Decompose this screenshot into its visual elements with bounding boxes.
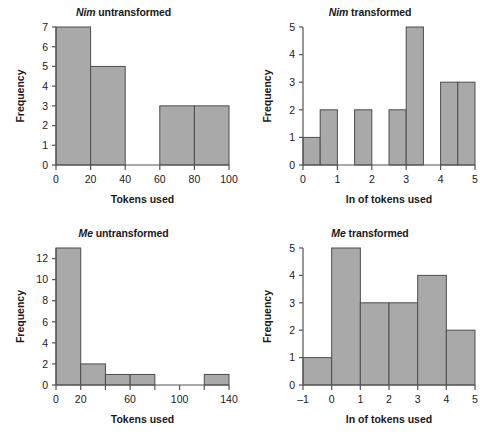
x-axis: 02060100140 (53, 385, 238, 405)
x-tick-label: 100 (220, 173, 238, 185)
y-tick-label: 8 (42, 294, 48, 306)
x-tick-label: –1 (297, 393, 309, 405)
histogram-bar (160, 106, 195, 165)
histogram-figure: Nim untransformed 01234567020406080100To… (0, 0, 493, 441)
x-tick-label: 20 (75, 393, 87, 405)
plot-me-transformed: 012345–1012345ln of tokens usedFrequency (247, 221, 493, 441)
y-axis-title: Frequency (261, 290, 273, 343)
y-tick-label: 5 (289, 21, 295, 33)
y-tick-label: 12 (36, 252, 48, 264)
histogram-bar (91, 66, 126, 165)
x-axis: 020406080100 (53, 165, 238, 185)
x-tick-label: 3 (403, 173, 409, 185)
y-tick-label: 0 (289, 379, 295, 391)
plot-me-untransformed: 02468101202060100140Tokens usedFrequency (0, 221, 247, 441)
histogram-bar (320, 110, 337, 165)
y-tick-label: 0 (42, 379, 48, 391)
x-tick-label: 60 (154, 173, 166, 185)
histogram-bar (355, 110, 372, 165)
bars-group (303, 248, 475, 385)
histogram-bar (446, 330, 475, 385)
histogram-bar (389, 110, 406, 165)
bars-group (56, 27, 229, 165)
histogram-bar (406, 27, 423, 165)
x-axis: –1012345 (297, 385, 478, 405)
bars-group (303, 27, 475, 165)
x-axis-title: Tokens used (111, 193, 174, 205)
y-tick-label: 2 (289, 104, 295, 116)
y-tick-label: 1 (289, 131, 295, 143)
x-axis: 012345 (300, 165, 478, 185)
y-tick-label: 2 (42, 358, 48, 370)
y-tick-label: 2 (289, 324, 295, 336)
y-tick-label: 0 (289, 159, 295, 171)
y-tick-label: 3 (289, 297, 295, 309)
histogram-bar (389, 303, 418, 385)
x-tick-label: 20 (85, 173, 97, 185)
x-tick-label: 0 (53, 393, 59, 405)
plot-nim-transformed: 012345012345ln of tokens usedFrequency (247, 0, 493, 221)
plot-nim-untransformed: 01234567020406080100Tokens usedFrequency (0, 0, 247, 221)
histogram-bar (303, 358, 332, 385)
y-tick-label: 3 (289, 76, 295, 88)
histogram-bar (360, 303, 389, 385)
histogram-bar (332, 248, 361, 385)
y-tick-label: 4 (42, 80, 48, 92)
histogram-bar (441, 82, 458, 165)
x-tick-label: 1 (357, 393, 363, 405)
x-tick-label: 60 (124, 393, 136, 405)
panel-me-transformed: Me transformed 012345–1012345ln of token… (247, 221, 493, 441)
x-tick-label: 0 (300, 173, 306, 185)
y-tick-label: 0 (42, 159, 48, 171)
plot-area: 012345012345 (289, 21, 478, 185)
x-axis-title: ln of tokens used (346, 193, 432, 205)
y-tick-label: 5 (289, 242, 295, 254)
x-tick-label: 5 (472, 173, 478, 185)
bars-group (56, 248, 229, 385)
histogram-bar (204, 374, 229, 385)
histogram-bar (105, 374, 130, 385)
histogram-bar (458, 82, 475, 165)
histogram-bar (303, 137, 320, 165)
y-axis: 012345 (289, 21, 303, 171)
histogram-bar (56, 27, 91, 165)
y-tick-label: 4 (289, 269, 295, 281)
y-tick-label: 6 (42, 41, 48, 53)
plot-area: 012345–1012345 (289, 242, 478, 405)
x-tick-label: 40 (119, 173, 131, 185)
x-tick-label: 1 (334, 173, 340, 185)
x-tick-label: 4 (438, 173, 444, 185)
histogram-bar (130, 374, 155, 385)
y-tick-label: 3 (42, 100, 48, 112)
y-axis: 01234567 (42, 21, 56, 171)
plot-area: 01234567020406080100 (42, 21, 238, 185)
x-tick-label: 140 (220, 393, 238, 405)
x-tick-label: 0 (329, 393, 335, 405)
y-tick-label: 4 (289, 48, 295, 60)
x-tick-label: 80 (189, 173, 201, 185)
x-tick-label: 2 (369, 173, 375, 185)
y-tick-label: 1 (42, 139, 48, 151)
y-tick-label: 2 (42, 119, 48, 131)
y-tick-label: 5 (42, 60, 48, 72)
y-tick-label: 4 (42, 337, 48, 349)
y-axis-title: Frequency (14, 69, 26, 122)
y-tick-label: 1 (289, 351, 295, 363)
histogram-bar (194, 106, 229, 165)
y-axis: 024681012 (36, 252, 56, 390)
histogram-bar (56, 248, 81, 385)
x-axis-title: Tokens used (111, 413, 174, 425)
panel-nim-untransformed: Nim untransformed 01234567020406080100To… (0, 0, 247, 221)
histogram-bar (418, 275, 447, 385)
x-tick-label: 2 (386, 393, 392, 405)
x-tick-label: 0 (53, 173, 59, 185)
y-tick-label: 6 (42, 316, 48, 328)
y-axis: 012345 (289, 242, 303, 391)
plot-area: 02468101202060100140 (36, 248, 238, 405)
y-tick-label: 10 (36, 273, 48, 285)
y-axis-title: Frequency (261, 69, 273, 122)
y-axis-title: Frequency (14, 290, 26, 343)
histogram-bar (81, 364, 106, 385)
y-tick-label: 7 (42, 21, 48, 33)
x-tick-label: 100 (171, 393, 189, 405)
